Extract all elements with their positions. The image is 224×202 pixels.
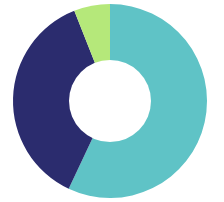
donut-chart-svg: Teal segmentNavy segmentGreen segment [0, 0, 224, 202]
donut-chart: Teal segmentNavy segmentGreen segment [0, 0, 224, 202]
donut-center-hole [69, 60, 151, 142]
